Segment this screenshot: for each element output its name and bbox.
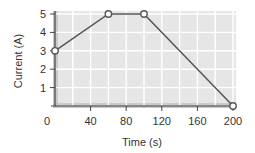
y-tick-label: 3 <box>40 45 46 57</box>
line-chart: Time (s) Current (A) 1234504080120160200 <box>0 0 255 153</box>
data-point <box>141 11 147 17</box>
data-point <box>230 103 236 109</box>
x-axis-label: Time (s) <box>122 136 162 148</box>
x-tick-label: 0 <box>44 115 50 127</box>
y-tick-label: 4 <box>40 26 46 38</box>
y-tick-label: 5 <box>40 8 46 20</box>
x-tick-label: 200 <box>224 115 242 127</box>
y-tick-label: 1 <box>40 82 46 94</box>
x-tick-label: 120 <box>153 115 171 127</box>
x-tick-label: 80 <box>120 115 132 127</box>
y-axis-label: Current (A) <box>12 34 24 88</box>
x-tick-label: 160 <box>188 115 206 127</box>
data-point <box>105 11 111 17</box>
x-tick-label: 40 <box>84 115 96 127</box>
data-point <box>52 48 58 54</box>
y-tick-label: 2 <box>40 63 46 75</box>
